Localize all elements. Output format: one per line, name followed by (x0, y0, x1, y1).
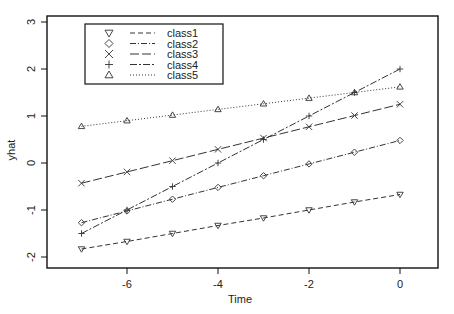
x-axis-title: Time (228, 293, 252, 305)
line-chart: -2-10123 -6-4-20 class1class2class3class… (0, 0, 454, 314)
series-class3 (78, 101, 403, 186)
legend: class1class2class3class4class5 (85, 24, 223, 84)
y-tick-label: 1 (25, 113, 37, 119)
series-layer (78, 66, 403, 252)
x-axis: -6-4-20 (122, 268, 403, 290)
y-tick-label: 0 (25, 160, 37, 166)
x-tick-label: -6 (122, 278, 132, 290)
y-tick-label: -1 (25, 205, 37, 215)
y-axis-title: yhat (5, 140, 17, 161)
x-tick-label: -2 (304, 278, 314, 290)
y-tick-label: 3 (25, 19, 37, 25)
x-tick-label: -4 (213, 278, 223, 290)
y-tick-label: 2 (25, 66, 37, 72)
y-axis: -2-10123 (25, 19, 47, 262)
legend-label: class5 (167, 69, 198, 81)
series-class1 (78, 192, 403, 252)
x-tick-label: 0 (397, 278, 403, 290)
series-class4 (78, 66, 403, 237)
y-tick-label: -2 (25, 252, 37, 262)
